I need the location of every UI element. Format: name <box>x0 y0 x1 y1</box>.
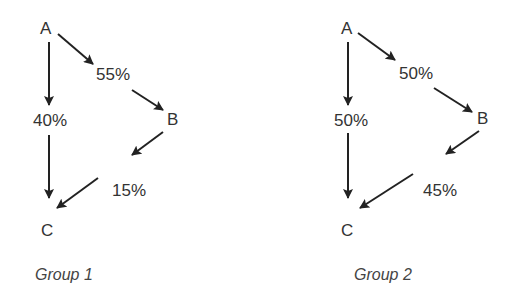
arrow-a-to-55 <box>58 34 93 64</box>
arrow-50-to-b <box>434 88 472 112</box>
arrow-b-to-mid <box>132 132 163 155</box>
caption-group-2: Group 2 <box>354 266 412 284</box>
arrows-layer <box>0 0 517 300</box>
node-a-1: A <box>40 20 51 37</box>
arrow-55-to-b <box>132 90 163 110</box>
edge-a-b-2: 50% <box>399 65 433 82</box>
edge-a-c-1: 40% <box>33 112 67 129</box>
arrow-b-to-mid-2 <box>446 131 479 154</box>
arrow-45-to-c <box>360 174 413 208</box>
node-a-2: A <box>341 20 352 37</box>
edge-a-b-1: 55% <box>96 66 130 83</box>
node-c-1: C <box>41 222 53 239</box>
arrow-15-to-c <box>57 178 98 208</box>
node-b-2: B <box>477 110 488 127</box>
caption-group-1: Group 1 <box>35 266 93 284</box>
node-c-2: C <box>341 222 353 239</box>
arrow-a-to-50 <box>358 33 395 60</box>
node-b-1: B <box>167 111 178 128</box>
edge-a-c-2: 50% <box>334 112 368 129</box>
edge-b-c-1: 15% <box>112 182 146 199</box>
edge-b-c-2: 45% <box>423 182 457 199</box>
